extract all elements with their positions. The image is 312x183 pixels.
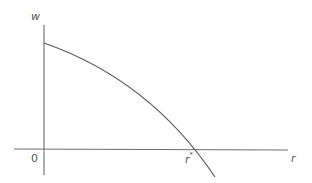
y-axis-label: w <box>31 11 40 22</box>
origin-label: 0 <box>31 153 38 164</box>
x-axis-label: r <box>291 153 296 164</box>
x-axis <box>14 149 288 150</box>
root-label-superscript: * <box>190 151 194 159</box>
root-label-base: r <box>185 153 190 166</box>
root-label: r* <box>185 153 193 165</box>
diagram-canvas <box>0 0 312 183</box>
